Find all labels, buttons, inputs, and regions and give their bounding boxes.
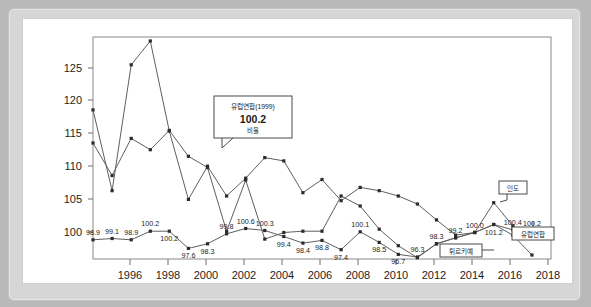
x-tick-1998: 1998 — [156, 269, 180, 281]
x-tick-2014: 2014 — [460, 269, 484, 281]
data-point[interactable] — [320, 239, 323, 242]
data-point[interactable] — [263, 156, 266, 159]
tooltip-tail — [222, 138, 233, 148]
point-label-2013: 98.3 — [430, 232, 444, 241]
point-label-2009: 100.1 — [351, 220, 369, 229]
data-point[interactable] — [244, 179, 247, 182]
point-label-1997: 98.9 — [124, 228, 138, 237]
data-point[interactable] — [168, 230, 171, 233]
data-point[interactable] — [301, 191, 304, 194]
data-point[interactable] — [530, 253, 533, 256]
x-tick-2010: 2010 — [384, 269, 408, 281]
data-point[interactable] — [416, 255, 419, 258]
data-point[interactable] — [454, 236, 457, 239]
callout-turkiye[interactable]: 튀르키예 — [440, 244, 494, 257]
data-point[interactable] — [359, 186, 362, 189]
data-point[interactable] — [340, 248, 343, 251]
point-label-1995: 98.9 — [86, 228, 100, 237]
point-label-2015: 100.0 — [466, 221, 484, 230]
series-0 — [91, 39, 533, 239]
data-point[interactable] — [397, 253, 400, 256]
data-point[interactable] — [91, 141, 94, 144]
tooltip-callout[interactable]: 유럽연합(1999) 100.2 비율 — [214, 96, 292, 148]
point-label-2005: 99.4 — [277, 240, 291, 249]
data-point[interactable] — [397, 194, 400, 197]
data-point[interactable] — [359, 204, 362, 207]
data-point[interactable] — [149, 148, 152, 151]
data-point[interactable] — [149, 39, 152, 42]
data-point[interactable] — [111, 189, 114, 192]
y-tick-115: 115 — [64, 127, 82, 139]
callout-turkiye-label: 튀르키예 — [449, 247, 473, 256]
data-point[interactable] — [378, 241, 381, 244]
data-point[interactable] — [263, 238, 266, 241]
line-chart[interactable]: 125 120 115 110 105 100 1996 1998 2000 2… — [22, 18, 571, 282]
point-label-2006: 98.4 — [296, 246, 310, 255]
data-point[interactable] — [435, 218, 438, 221]
point-label-2008: 97.4 — [334, 253, 348, 262]
data-point[interactable] — [282, 231, 285, 234]
point-label-2003: 100.6 — [237, 217, 255, 226]
x-tick-2006: 2006 — [308, 269, 332, 281]
callout-eu-label: 유럽연합 — [521, 230, 545, 239]
data-point[interactable] — [206, 166, 209, 169]
data-point[interactable] — [130, 238, 133, 241]
data-point[interactable] — [263, 229, 266, 232]
data-point[interactable] — [320, 178, 323, 181]
data-point[interactable] — [111, 174, 114, 177]
y-tick-125: 125 — [64, 62, 82, 74]
data-point[interactable] — [492, 201, 495, 204]
point-label-2017: 100.4 — [504, 218, 522, 227]
data-point[interactable] — [492, 223, 495, 226]
x-tick-2004: 2004 — [270, 269, 294, 281]
callout-india[interactable]: 인도 — [499, 181, 527, 202]
data-point[interactable] — [378, 228, 381, 231]
point-label-2007: 98.8 — [315, 243, 329, 252]
tooltip-value: 100.2 — [240, 113, 266, 125]
data-point[interactable] — [282, 235, 285, 238]
data-point[interactable] — [416, 202, 419, 205]
y-axis: 125 120 115 110 105 100 — [64, 62, 93, 238]
data-point[interactable] — [206, 242, 209, 245]
y-tick-120: 120 — [64, 94, 82, 106]
point-label-2002: 99.8 — [220, 222, 234, 231]
data-point[interactable] — [435, 242, 438, 245]
data-point[interactable] — [130, 137, 133, 140]
data-point[interactable] — [359, 230, 362, 233]
data-point[interactable] — [301, 230, 304, 233]
x-tick-2008: 2008 — [346, 269, 370, 281]
point-label-1998: 100.2 — [141, 219, 159, 228]
data-point[interactable] — [320, 230, 323, 233]
y-tick-100: 100 — [64, 226, 82, 238]
series-1 — [91, 129, 533, 259]
data-point[interactable] — [149, 230, 152, 233]
point-label-2004: 100.3 — [256, 219, 274, 228]
data-point[interactable] — [225, 194, 228, 197]
data-point[interactable] — [225, 232, 228, 235]
data-point[interactable] — [187, 155, 190, 158]
x-tick-2002: 2002 — [232, 269, 256, 281]
data-point[interactable] — [473, 231, 476, 234]
data-point[interactable] — [130, 63, 133, 66]
x-axis: 1996 1998 2000 2002 2004 2006 2008 2010 … — [118, 259, 560, 281]
x-tick-2016: 2016 — [498, 269, 522, 281]
data-point[interactable] — [340, 199, 343, 202]
x-tick-1996: 1996 — [118, 269, 142, 281]
data-point[interactable] — [378, 189, 381, 192]
data-point[interactable] — [282, 159, 285, 162]
data-point[interactable] — [187, 247, 190, 250]
point-label-2011: 96.7 — [391, 257, 405, 266]
data-point[interactable] — [168, 129, 171, 132]
data-point[interactable] — [301, 242, 304, 245]
data-point[interactable] — [111, 237, 114, 240]
data-point[interactable] — [397, 244, 400, 247]
footer-placeholder — [22, 286, 222, 300]
data-point[interactable] — [244, 227, 247, 230]
y-tick-105: 105 — [64, 193, 82, 205]
data-point[interactable] — [187, 198, 190, 201]
data-point[interactable] — [91, 238, 94, 241]
data-point[interactable] — [91, 108, 94, 111]
x-tick-2018: 2018 — [536, 269, 560, 281]
data-point[interactable] — [340, 194, 343, 197]
screenshot-root: 125 120 115 110 105 100 1996 1998 2000 2… — [0, 0, 591, 307]
